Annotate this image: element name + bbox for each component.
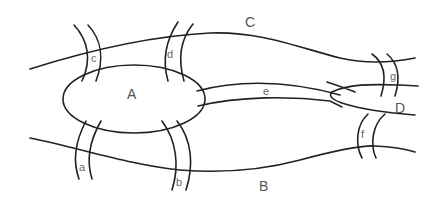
bridge-a-right xyxy=(89,121,101,179)
bridge-f-right xyxy=(373,114,385,158)
label-bridge-d: d xyxy=(167,48,173,60)
bridge-b-left xyxy=(162,121,176,190)
bridge-d-right xyxy=(181,24,193,81)
label-bridge-a: a xyxy=(79,161,86,173)
label-b: B xyxy=(259,178,268,194)
label-bridge-f: f xyxy=(361,128,365,140)
label-d: D xyxy=(395,100,405,116)
label-bridge-c: c xyxy=(91,52,97,64)
konigsberg-diagram: A B C D a b c d e f g xyxy=(0,0,441,209)
label-bridge-b: b xyxy=(176,176,182,188)
bridge-g-left xyxy=(372,54,384,96)
label-a: A xyxy=(127,86,137,102)
land-d-upper-edge xyxy=(327,82,418,92)
label-c: C xyxy=(245,14,255,30)
label-bridge-g: g xyxy=(390,70,396,82)
bridge-e-lower xyxy=(198,98,342,107)
label-bridge-e: e xyxy=(263,85,269,97)
